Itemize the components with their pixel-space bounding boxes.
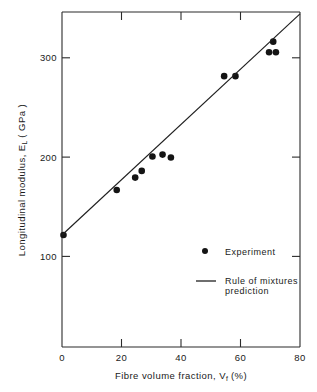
data-point xyxy=(266,49,273,56)
x-tick-label-40: 40 xyxy=(175,352,186,363)
x-tick-label-60: 60 xyxy=(235,352,246,363)
legend-label-prediction-line1: Rule of mixtures xyxy=(225,276,298,286)
x-tick-marks xyxy=(122,12,241,347)
svg-text:Fibre volume fraction,Vf(%): Fibre volume fraction,Vf(%) xyxy=(115,370,247,382)
x-tick-labels: 0 20 40 60 80 xyxy=(59,352,306,363)
y-tick-label-200: 200 xyxy=(40,152,57,163)
x-axis-title-subscript: f xyxy=(226,375,228,382)
chart-figure: 100 200 300 0 20 40 60 80 Fibre volume f… xyxy=(0,0,317,392)
x-tick-label-20: 20 xyxy=(116,352,127,363)
prediction-line xyxy=(62,14,300,235)
data-point xyxy=(60,232,67,239)
data-point xyxy=(149,153,156,160)
y-axis-title: Longitudinal modulus,EL( GPa ) xyxy=(16,104,28,256)
y-axis-title-subscript: L xyxy=(21,140,28,144)
data-point xyxy=(138,168,145,175)
y-tick-marks xyxy=(62,58,300,257)
y-axis-title-main: Longitudinal modulus, xyxy=(16,154,27,256)
chart-legend: Experiment Rule of mixtures prediction xyxy=(196,247,298,296)
y-tick-label-300: 300 xyxy=(40,52,57,63)
x-tick-label-0: 0 xyxy=(59,352,65,363)
data-series-layer xyxy=(60,14,300,238)
x-axis-title-units: (%) xyxy=(231,370,247,381)
y-axis-title-symbol: E xyxy=(16,144,27,151)
data-point xyxy=(168,154,175,161)
data-point xyxy=(221,73,228,80)
data-point xyxy=(113,187,120,194)
x-axis-title-main: Fibre volume fraction, xyxy=(115,370,216,381)
legend-label-prediction-line2: prediction xyxy=(225,286,269,296)
y-axis-title-units: ( GPa ) xyxy=(16,104,27,138)
data-point xyxy=(159,151,166,158)
y-tick-label-100: 100 xyxy=(40,251,57,262)
data-point xyxy=(132,174,139,181)
legend-label-experiment: Experiment xyxy=(225,247,276,257)
svg-text:Longitudinal modulus,EL( GPa: Longitudinal modulus,EL( GPa ) xyxy=(16,104,28,256)
x-tick-label-80: 80 xyxy=(294,352,305,363)
legend-marker-experiment-icon xyxy=(202,248,208,254)
chart-svg: 100 200 300 0 20 40 60 80 Fibre volume f… xyxy=(0,0,317,392)
y-tick-labels: 100 200 300 xyxy=(40,52,57,262)
plot-frame xyxy=(62,12,300,347)
x-axis-title: Fibre volume fraction,Vf(%) xyxy=(115,370,247,382)
data-point xyxy=(273,49,280,56)
